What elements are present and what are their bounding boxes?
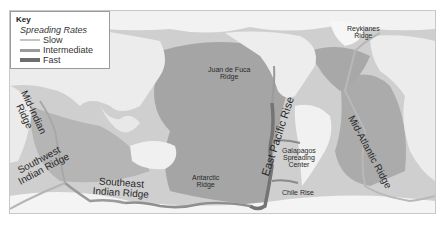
intermediate-rate-swatch	[20, 49, 40, 52]
fast-rate-swatch	[20, 58, 40, 62]
galapagos-label-line1: Galapagos	[282, 147, 316, 154]
antarctic-ridge-label: Antarctic Ridge	[192, 174, 219, 188]
galapagos-label-line3: Center	[282, 161, 316, 168]
slow-rate-swatch	[20, 39, 40, 41]
juan-de-fuca-label-line2: Ridge	[208, 73, 250, 80]
galapagos-label-line2: Spreading	[282, 154, 316, 161]
chile-rise-label: Chile Rise	[282, 189, 314, 196]
legend-label-intermediate: Intermediate	[43, 45, 93, 55]
legend-item-fast: Fast	[20, 55, 104, 65]
juan-de-fuca-ridge-label: Juan de Fuca Ridge	[208, 66, 250, 80]
antarctic-label-line2: Ridge	[192, 181, 219, 188]
legend-title: Key	[16, 15, 104, 24]
reykjanes-label-line1: Reykjanes	[347, 25, 380, 32]
southeast-indian-ridge-label: Southeast Indian Ridge	[92, 176, 149, 200]
reykjanes-ridge-label: Reykjanes Ridge	[347, 25, 380, 39]
antarctic-label-line1: Antarctic	[192, 174, 219, 181]
legend-label-slow: Slow	[43, 35, 63, 45]
legend-subtitle: Spreading Rates	[20, 25, 104, 35]
juan-de-fuca-label-line1: Juan de Fuca	[208, 66, 250, 73]
legend-label-fast: Fast	[43, 55, 61, 65]
map-legend: Key Spreading Rates Slow Intermediate Fa…	[10, 11, 110, 69]
galapagos-spreading-center-label: Galapagos Spreading Center	[282, 147, 316, 168]
legend-item-slow: Slow	[20, 35, 104, 45]
reykjanes-label-line2: Ridge	[347, 32, 380, 39]
legend-item-intermediate: Intermediate	[20, 45, 104, 55]
